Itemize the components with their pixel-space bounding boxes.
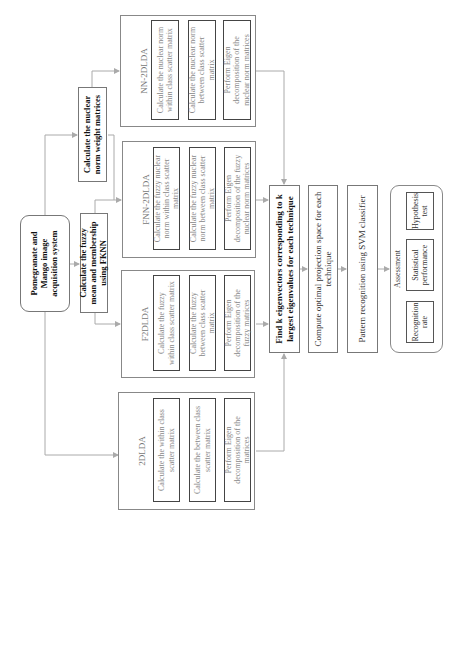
find-eigenvectors-box: Find k eigenvectors corresponding to k l… <box>269 185 300 353</box>
assessment-statistical-performance: Statistical performance <box>406 239 434 291</box>
technique-step: Calculate the fuzzy within class scatter… <box>153 275 180 371</box>
fknn-label: Calculate the fuzzy mean and membership … <box>79 218 108 308</box>
technique-fnn-2dlda: FNN-2DLDA Calculate the fuzzy nuclear no… <box>122 141 256 258</box>
assessment-hypothesis-test: Hypothesis test <box>406 192 434 230</box>
technique-title: FNN-2DLDA <box>141 142 151 257</box>
technique-title: NN-2DLDA <box>139 16 149 126</box>
technique-f2dlda: F2DLDA Calculate the fuzzy within class … <box>121 270 255 378</box>
assessment-recognition-rate: Recognition rate <box>406 301 434 343</box>
assessment-title: Assessment <box>393 186 402 352</box>
projection-space-box: Compute optimal projection space for eac… <box>308 185 338 353</box>
technique-step: Perform Eigen decomposition of the fuzzy… <box>224 147 251 250</box>
source-box: Pomegranate and Mango image acquisition … <box>20 215 70 312</box>
technique-step: Perform Eigen decomposition of the fuzzy… <box>224 275 251 371</box>
technique-2dlda: 2DLDA Calculate the within class scatter… <box>118 392 255 510</box>
nuclear-weight-box: Calculate the nuclear norm weight matric… <box>78 87 107 182</box>
svm-classifier-box: Pattern recognition using SVM classifier <box>347 185 378 353</box>
flowchart-canvas: Pomegranate and Mango image acquisition … <box>0 0 458 655</box>
technique-nn-2dlda: NN-2DLDA Calculate the nuclear norm with… <box>120 15 256 127</box>
fknn-box: Calculate the fuzzy mean and membership … <box>80 213 108 313</box>
technique-step: Calculate the within class scatter matri… <box>153 398 180 502</box>
technique-step: Calculate the nuclear norm within class … <box>151 20 179 120</box>
technique-step: Perform Eigen decomposition of the nucle… <box>223 20 251 120</box>
technique-title: 2DLDA <box>137 393 147 509</box>
nuclear-weight-label: Calculate the nuclear norm weight matric… <box>83 92 103 177</box>
technique-step: Calculate the fuzzy nuclear norm between… <box>189 147 216 250</box>
technique-step: Perform Eigen decomposition of the matri… <box>224 398 251 502</box>
technique-step: Calculate the fuzzy nuclear norm within … <box>153 147 180 250</box>
technique-step: Calculate the nuclear norm between class… <box>188 20 216 120</box>
assessment-group: Assessment Recognition rate Statistical … <box>390 185 443 353</box>
technique-step: Calculate the between class scatter matr… <box>189 398 216 502</box>
technique-step: Calculate the fuzzy between class scatte… <box>189 275 216 371</box>
source-label: Pomegranate and Mango image acquisition … <box>30 220 59 307</box>
technique-title: F2DLDA <box>140 271 150 377</box>
